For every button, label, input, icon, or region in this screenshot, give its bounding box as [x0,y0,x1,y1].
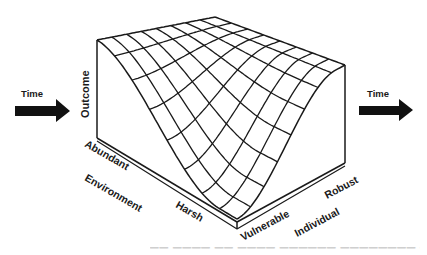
arrow-right-icon [15,99,70,122]
arrow-right-icon [359,99,413,121]
environment-axis-title: Environment [83,171,145,214]
grid-line-environment [150,35,264,109]
outcome-axis-label: Outcome [79,70,91,118]
individual-axis-title: Individual [292,205,341,239]
harsh-label: Harsh [174,198,206,223]
grid-line-environment [185,47,297,169]
surface-diagram: Time Time Outcome Abundant Environment H… [0,0,427,255]
figure: Time Time Outcome Abundant Environment H… [0,0,427,255]
grid-line-individual [186,23,319,88]
figure-caption-cutoff: ▔▔ ▔▔▔▔ ▔▔ ▔▔▔▔ ▔▔▔▔▔▔ ▔▔▔▔▔▔▔▔ ▔ [150,247,420,255]
left-time-arrow: Time [15,88,70,122]
right-time-arrow: Time [359,88,413,121]
grid-line-individual [215,17,345,65]
grid-line-individual [171,26,305,110]
robust-label: Robust [322,173,360,201]
left-time-label: Time [21,88,43,99]
right-time-label: Time [367,88,389,99]
grid-line-individual [200,20,331,73]
